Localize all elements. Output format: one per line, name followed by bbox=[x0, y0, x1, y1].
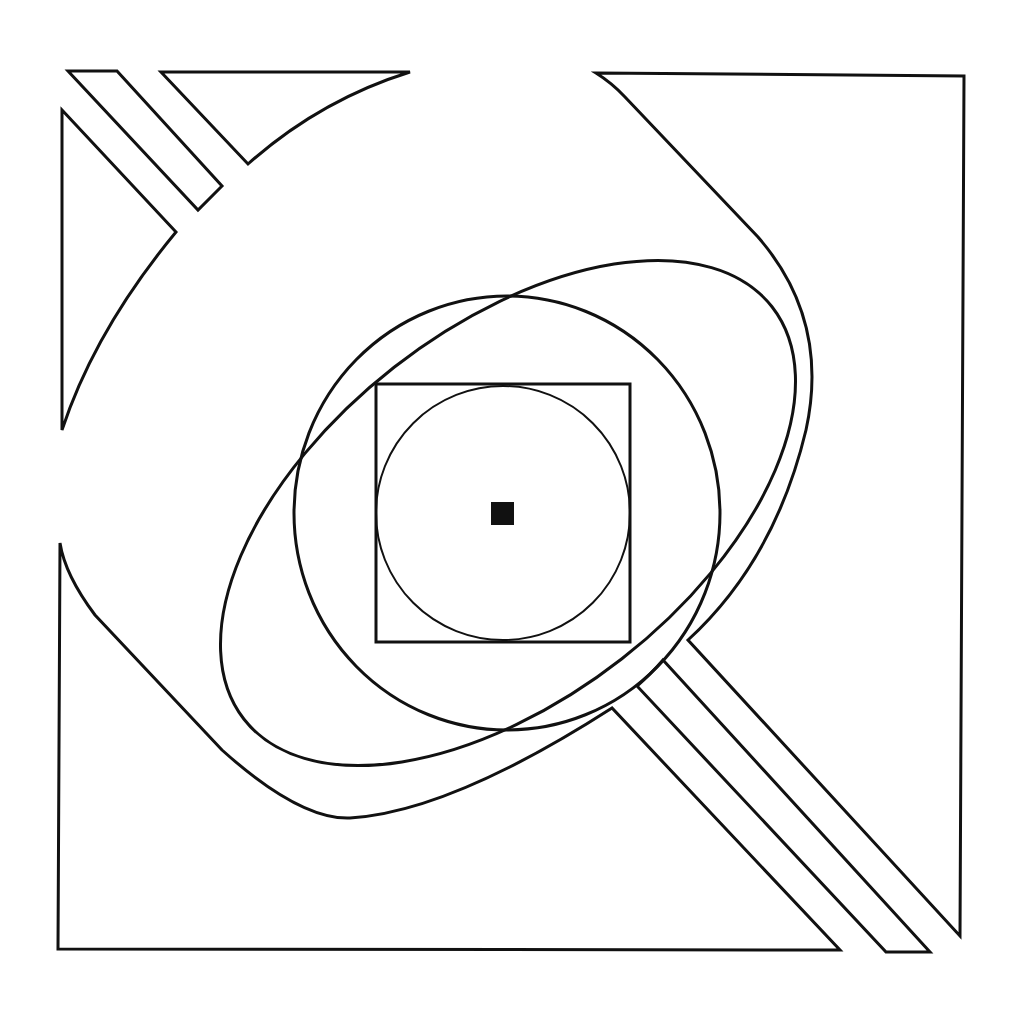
frame-top-triangle bbox=[161, 72, 410, 164]
frame-left-top-piece bbox=[62, 110, 176, 430]
artwork-svg bbox=[0, 0, 1022, 1012]
frame-top-right-piece bbox=[596, 73, 964, 936]
diagonal-strip-bottom-middle bbox=[637, 660, 930, 952]
geometric-artwork bbox=[0, 0, 1022, 1012]
center-square bbox=[491, 502, 514, 525]
